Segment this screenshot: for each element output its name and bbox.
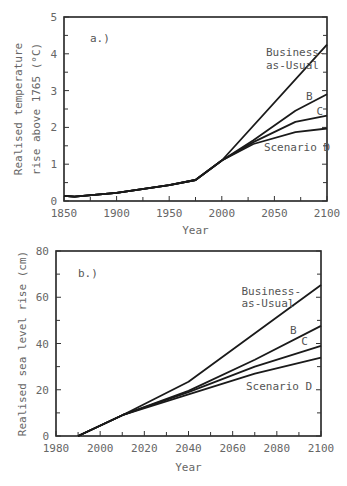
- x-tick-label: 1950: [156, 207, 183, 220]
- series-annotation: as-Usual: [242, 297, 295, 310]
- x-tick-label: 2100: [314, 207, 341, 220]
- series-line-c: [64, 116, 327, 197]
- series-annotation: C: [301, 335, 308, 348]
- y-tick-label: 60: [36, 291, 49, 304]
- panel-label: b.): [78, 267, 98, 280]
- panel-label: a.): [90, 32, 110, 45]
- x-tick-label: 2100: [308, 442, 335, 455]
- y-tick-label: 5: [50, 11, 57, 24]
- series-line-scenario-d: [64, 129, 327, 197]
- y-tick-label: 1: [50, 158, 57, 171]
- x-tick-label: 2060: [219, 442, 246, 455]
- chart-sea-level-rise: 0204060801980200020202040206020802100Yea…: [16, 245, 334, 474]
- series-annotation: as-Usual: [266, 59, 319, 72]
- climate-projection-figure: 012345185019001950200020502100YearRealis…: [0, 0, 347, 486]
- y-tick-label: 40: [36, 338, 49, 351]
- x-tick-label: 1980: [43, 442, 70, 455]
- y-axis-label: rise above 1765 (°C): [30, 43, 43, 175]
- y-tick-label: 80: [36, 245, 49, 258]
- x-tick-label: 2020: [131, 442, 158, 455]
- series-annotation: Scenario D: [246, 380, 312, 393]
- y-axis-label: Realised sea level rise (cm): [16, 251, 29, 436]
- x-axis-label: Year: [182, 224, 209, 237]
- series-annotation: Scenario D: [264, 141, 330, 154]
- series-annotation: B: [306, 90, 313, 103]
- x-tick-label: 1900: [103, 207, 130, 220]
- series-annotation: B: [290, 324, 297, 337]
- series-line-scenario-d: [78, 358, 321, 436]
- series-annotation: Business-: [266, 46, 326, 59]
- x-tick-label: 2000: [87, 442, 114, 455]
- y-axis-label: Realised temperature: [12, 43, 25, 175]
- chart-temperature-rise: 012345185019001950200020502100YearRealis…: [12, 11, 340, 237]
- x-tick-label: 1850: [51, 207, 78, 220]
- y-tick-label: 3: [50, 85, 57, 98]
- y-tick-label: 2: [50, 121, 57, 134]
- y-tick-label: 20: [36, 384, 49, 397]
- series-annotation: C: [316, 105, 323, 118]
- x-tick-label: 2050: [261, 207, 288, 220]
- x-tick-label: 2080: [264, 442, 291, 455]
- y-tick-label: 4: [50, 48, 57, 61]
- x-tick-label: 2000: [209, 207, 236, 220]
- x-axis-label: Year: [175, 461, 202, 474]
- x-tick-label: 2040: [175, 442, 202, 455]
